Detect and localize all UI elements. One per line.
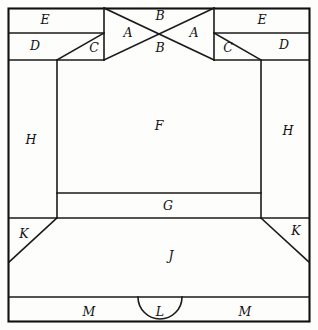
region-label-d-right: D — [278, 37, 289, 52]
outer-frame-border — [9, 9, 310, 322]
region-label-l: L — [155, 304, 164, 319]
region-label-g: G — [163, 198, 173, 213]
partitioned-rectangle-figure: E A B A E D C B C D H F H G K K J M L M — [0, 0, 318, 330]
region-label-k-right: K — [290, 223, 301, 238]
region-label-k-left: K — [18, 226, 29, 241]
region-label-a-left: A — [122, 25, 132, 40]
region-label-e-right: E — [256, 12, 266, 27]
region-label-m-left: M — [82, 304, 97, 319]
diagonal-k-right — [261, 218, 309, 262]
diagonal-k-left — [9, 218, 57, 262]
region-label-h-left: H — [25, 132, 38, 147]
region-label-d-left: D — [29, 38, 40, 53]
region-label-m-right: M — [238, 304, 253, 319]
region-label-j: J — [165, 248, 174, 263]
region-label-b-bottom: B — [154, 40, 164, 55]
diagonal-c-right — [214, 33, 261, 60]
region-label-c-left: C — [89, 40, 99, 55]
diagram-canvas: E A B A E D C B C D H F H G K K J M L M — [0, 0, 318, 330]
region-label-e-left: E — [39, 12, 49, 27]
region-label-f: F — [154, 118, 165, 133]
region-label-b-top: B — [154, 8, 164, 23]
region-label-h-right: H — [282, 123, 295, 138]
region-label-c-right: C — [223, 40, 233, 55]
region-label-a-right: A — [188, 25, 198, 40]
